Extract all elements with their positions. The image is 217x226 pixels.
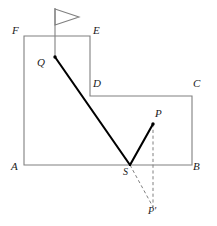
flag-banner-icon bbox=[55, 9, 79, 25]
label-s: S bbox=[123, 167, 128, 177]
point-q-dot bbox=[53, 55, 56, 58]
label-b: B bbox=[193, 161, 200, 172]
label-p-prime: P' bbox=[148, 206, 156, 216]
region-outline-polygon bbox=[24, 36, 192, 165]
label-p: P bbox=[155, 108, 162, 119]
label-d: D bbox=[93, 78, 101, 89]
incident-ray-segment bbox=[55, 57, 130, 165]
label-q: Q bbox=[37, 57, 45, 68]
label-f: F bbox=[12, 25, 19, 36]
label-c: C bbox=[193, 78, 200, 89]
label-e: E bbox=[93, 25, 100, 36]
figure-canvas bbox=[0, 0, 217, 226]
virtual-ray-dashed bbox=[130, 165, 153, 207]
label-a: A bbox=[11, 161, 18, 172]
reflected-ray-segment bbox=[130, 124, 153, 165]
point-p-dot bbox=[151, 122, 154, 125]
geometry-figure: A B C D E F P P' Q S bbox=[0, 0, 217, 226]
